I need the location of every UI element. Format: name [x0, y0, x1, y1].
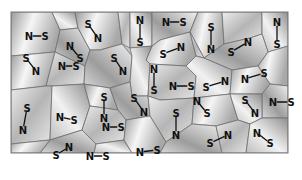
north-pole-label: N	[269, 97, 277, 108]
magnetic-domain-diagram: NSSNNSNSSNNSSNNSSNSNSNNSNSNSSNNSNSSNNSSN…	[0, 0, 302, 180]
south-pole-label: S	[202, 82, 209, 93]
south-pole-label: S	[130, 93, 137, 104]
north-pole-label: N	[162, 17, 170, 28]
south-pole-label: S	[206, 138, 213, 149]
south-pole-label: S	[72, 61, 79, 72]
south-pole-label: S	[70, 115, 77, 126]
north-pole-label: N	[169, 81, 177, 92]
south-pole-label: S	[150, 85, 157, 96]
south-pole-label: S	[23, 103, 30, 114]
south-pole-label: S	[22, 53, 29, 64]
north-pole-label: N	[94, 33, 102, 44]
north-pole-label: N	[150, 64, 158, 75]
north-pole-label: N	[136, 15, 144, 26]
north-pole-label: N	[253, 128, 261, 139]
north-pole-label: N	[207, 44, 215, 55]
north-pole-label: N	[172, 130, 180, 141]
south-pole-label: S	[187, 81, 194, 92]
north-pole-label: N	[193, 96, 201, 107]
north-pole-label: N	[177, 42, 185, 53]
south-pole-label: S	[41, 31, 48, 42]
south-pole-label: S	[84, 19, 91, 30]
south-pole-label: S	[153, 145, 160, 156]
south-pole-label: S	[52, 150, 59, 161]
south-pole-label: S	[172, 108, 179, 119]
north-pole-label: N	[58, 61, 66, 72]
south-pole-label: S	[260, 68, 267, 79]
north-pole-label: N	[25, 31, 33, 42]
north-pole-label: N	[244, 37, 252, 48]
south-pole-label: S	[273, 39, 280, 50]
north-pole-label: N	[66, 41, 74, 52]
north-pole-label: N	[221, 76, 229, 87]
south-pole-label: S	[227, 47, 234, 58]
north-pole-label: N	[65, 142, 73, 153]
north-pole-label: N	[136, 147, 144, 158]
south-pole-label: S	[110, 53, 117, 64]
north-pole-label: N	[140, 107, 148, 118]
south-pole-label: S	[100, 92, 107, 103]
domain-cell	[216, 120, 250, 153]
north-pole-label: N	[273, 17, 281, 28]
south-pole-label: S	[203, 108, 210, 119]
south-pole-label: S	[266, 138, 273, 149]
north-pole-label: N	[86, 151, 94, 162]
south-pole-label: S	[136, 37, 143, 48]
south-pole-label: S	[241, 95, 248, 106]
north-pole-label: N	[224, 130, 232, 141]
domain-cell	[11, 12, 60, 56]
north-pole-label: N	[241, 74, 249, 85]
north-pole-label: N	[251, 108, 259, 119]
south-pole-label: S	[287, 97, 294, 108]
south-pole-label: S	[179, 17, 186, 28]
south-pole-label: S	[117, 122, 124, 133]
south-pole-label: S	[207, 22, 214, 33]
north-pole-label: N	[119, 66, 127, 77]
north-pole-label: N	[100, 113, 108, 124]
domain-cell	[11, 86, 52, 144]
north-pole-label: N	[19, 125, 27, 136]
north-pole-label: N	[32, 66, 40, 77]
south-pole-label: S	[159, 49, 166, 60]
north-pole-label: N	[56, 112, 64, 123]
south-pole-label: S	[102, 151, 109, 162]
